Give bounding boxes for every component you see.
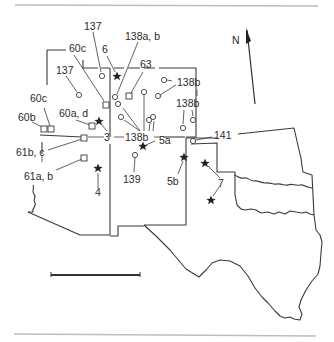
site-circle-138b-8 <box>190 117 195 122</box>
label-138ab: 138a, b <box>125 30 160 42</box>
site-star-4 <box>93 164 102 173</box>
site-square-60c-center <box>103 102 109 108</box>
label-61ab: 61a, b <box>24 170 53 182</box>
texas-panhandle-border <box>191 143 235 172</box>
site-square-60b <box>41 126 47 132</box>
label-141: 141 <box>214 129 232 141</box>
arizona-south-border <box>28 212 110 235</box>
site-circle-138b-4 <box>150 114 155 119</box>
label-60ad: 60a, d <box>59 107 88 119</box>
label-5a: 5a <box>159 134 171 146</box>
north-arrow-label: N <box>232 34 240 46</box>
site-circle-138b-7 <box>180 125 185 130</box>
label-60c-left: 60c <box>30 92 47 104</box>
label-6: 6 <box>102 43 108 55</box>
label-3: 3 <box>104 131 110 143</box>
site-circle-138b-5 <box>155 93 160 98</box>
label-137-left: 137 <box>56 64 74 76</box>
texas-border <box>144 138 322 320</box>
site-square-63 <box>126 93 132 99</box>
oklahoma-red-river <box>234 175 312 188</box>
site-star-7-south <box>206 196 215 205</box>
state-line-row <box>40 135 82 137</box>
map-figure: N <box>0 0 334 342</box>
label-63: 63 <box>140 58 152 70</box>
label-4: 4 <box>95 186 101 198</box>
site-circle-137-left <box>76 92 81 97</box>
site-square-60ad <box>89 123 95 129</box>
site-circle-137-top <box>99 73 104 78</box>
oklahoma-border <box>238 128 314 215</box>
utah-colorado-border <box>83 60 166 68</box>
label-60b: 60b <box>18 111 36 123</box>
label-7: 7 <box>218 177 224 189</box>
site-star-60ad <box>94 117 103 126</box>
label-137-top: 137 <box>84 20 102 32</box>
label-139: 139 <box>123 173 141 185</box>
site-square-61ab <box>81 155 87 161</box>
bottom-rule <box>14 334 316 336</box>
site-square-60c-left <box>48 126 54 132</box>
site-circle-138b-6 <box>161 77 166 82</box>
newmexico-south-border <box>110 226 144 236</box>
label-61bc: 61b, c <box>16 146 45 158</box>
north-arrow: N <box>232 28 255 104</box>
site-circle-138ab-2 <box>115 101 120 106</box>
site-circle-141 <box>190 138 195 143</box>
site-circle-138b-1 <box>118 114 123 119</box>
site-circle-138b-2 <box>141 89 146 94</box>
label-138b-ne: 138b <box>177 76 201 88</box>
site-circle-138ab-1 <box>112 94 117 99</box>
site-star-6 <box>112 72 121 81</box>
label-5b: 5b <box>167 175 179 187</box>
site-square-61bc <box>81 135 87 141</box>
label-138b-center: 138b <box>125 131 149 143</box>
label-60c-top: 60c <box>69 42 86 54</box>
site-star-5b <box>179 153 188 162</box>
site-circle-139 <box>132 152 137 157</box>
label-138b-e: 138b <box>176 97 200 109</box>
top-rule <box>15 5 318 6</box>
